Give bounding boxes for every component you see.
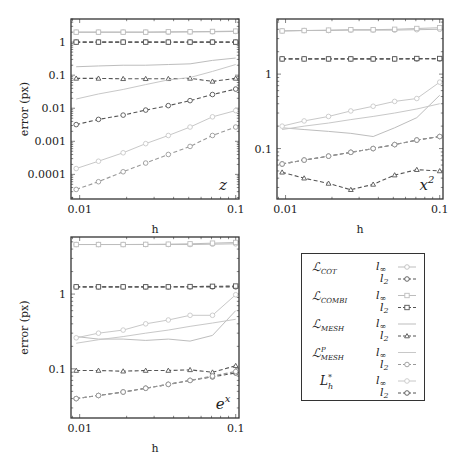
square-marker <box>121 285 125 289</box>
square-marker <box>96 285 100 289</box>
y-tick-label: 0.0001 <box>28 168 67 181</box>
circle-marker <box>96 179 101 184</box>
plot-frame <box>71 237 239 418</box>
series-5 <box>74 363 238 374</box>
legend-norm-label: l2 <box>380 301 389 315</box>
circle-marker <box>121 169 126 174</box>
circle-marker <box>302 119 307 124</box>
square-marker <box>166 40 170 44</box>
legend-method-symbol: ℒ <box>312 289 321 303</box>
triangle-marker <box>121 369 126 373</box>
square-marker <box>349 28 353 32</box>
square-marker <box>233 284 237 288</box>
legend-norm-sub: 2 <box>383 306 389 315</box>
y-tick-label: 0.1 <box>49 363 67 376</box>
triangle-marker <box>210 79 215 83</box>
legend-entry-0: ℒCOTl∞l2 <box>312 260 416 286</box>
legend-method-symbol: ℒ <box>312 260 321 274</box>
y-tick-label: 0.1 <box>49 69 67 82</box>
circle-marker <box>280 162 285 167</box>
circle-marker <box>143 386 148 391</box>
triangle-marker <box>302 176 307 180</box>
square-marker <box>166 285 170 289</box>
circle-marker <box>233 108 238 113</box>
square-marker <box>210 29 214 33</box>
circle-marker <box>121 390 126 395</box>
function-annotation-superscript: x <box>225 393 231 404</box>
square-marker <box>392 27 396 31</box>
square-marker <box>326 28 330 32</box>
triangle-marker <box>326 181 331 185</box>
legend-marker-sample <box>405 379 410 384</box>
circle-marker <box>233 292 238 297</box>
square-marker <box>302 28 306 32</box>
square-marker <box>144 242 148 246</box>
square-marker <box>144 285 148 289</box>
circle-marker <box>371 104 376 109</box>
circle-marker <box>74 187 79 192</box>
circle-marker <box>143 322 148 327</box>
triangle-marker <box>74 76 79 80</box>
legend-method-sup: * <box>328 373 332 382</box>
triangle-marker <box>166 368 171 372</box>
square-marker <box>280 29 284 33</box>
legend-norm-sub: 2 <box>383 334 389 343</box>
square-marker <box>210 40 214 44</box>
legend-norm-label: l2 <box>380 386 389 400</box>
square-marker <box>144 30 148 34</box>
legend-method-sub: MESH <box>320 354 345 362</box>
circle-marker <box>74 166 79 171</box>
triangle-marker <box>371 182 376 186</box>
square-marker <box>188 284 192 288</box>
circle-marker <box>188 144 193 149</box>
circle-marker <box>188 313 193 318</box>
circle-marker <box>392 142 397 147</box>
triangle-marker <box>414 167 419 171</box>
y-tick-label: 1 <box>59 288 66 301</box>
y-tick-label: 0.01 <box>42 102 67 115</box>
triangle-marker <box>280 170 285 174</box>
square-marker <box>96 242 100 246</box>
triangle-marker <box>188 367 193 371</box>
square-marker <box>74 242 78 246</box>
legend-method-symbol: ℒ <box>312 317 321 331</box>
function-annotation-superscript: 2 <box>427 174 434 185</box>
square-marker <box>96 30 100 34</box>
square-marker <box>415 26 419 30</box>
square-marker <box>438 26 442 30</box>
legend-entry-4: L*hl∞l2 <box>319 373 416 400</box>
square-marker <box>188 30 192 34</box>
circle-marker <box>121 113 126 118</box>
square-marker <box>233 240 237 244</box>
square-marker <box>74 30 78 34</box>
legend-method-symbol: ℒ <box>312 346 321 360</box>
legend-method-label: L*h <box>319 373 333 391</box>
circle-marker <box>96 159 101 164</box>
series-3 <box>74 284 238 289</box>
square-marker <box>74 285 78 289</box>
legend-norm-sub: 2 <box>383 277 389 286</box>
circle-marker <box>437 80 442 85</box>
series-2 <box>74 29 238 34</box>
legend-norm-label: l2 <box>380 272 389 286</box>
triangle-marker <box>143 76 148 80</box>
square-marker <box>121 242 125 246</box>
x-tick-label: 0.1 <box>227 203 245 216</box>
circle-marker <box>349 150 354 155</box>
square-marker <box>233 29 237 33</box>
circle-marker <box>74 336 79 341</box>
series-8 <box>74 292 238 340</box>
square-marker <box>371 28 375 32</box>
circle-marker <box>188 125 193 130</box>
square-marker <box>188 40 192 44</box>
legend-method-sub: h <box>328 382 333 391</box>
legend-entry-1: ℒCOMBIl∞l2 <box>312 289 416 315</box>
circle-marker <box>326 154 331 159</box>
square-marker <box>188 242 192 246</box>
square-marker <box>438 56 442 60</box>
triangle-marker <box>121 76 126 80</box>
square-marker <box>144 40 148 44</box>
circle-marker <box>188 378 193 383</box>
y-tick-label: 0.001 <box>35 135 67 148</box>
legend-method-label: ℒCOMBI <box>312 289 347 305</box>
